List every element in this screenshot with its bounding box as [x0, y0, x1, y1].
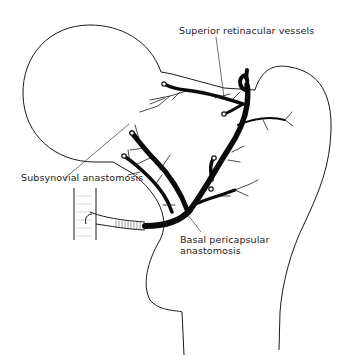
label-superior-retinacular-vessels: Superior retinacular vessels [179, 25, 314, 37]
vessel-tip [222, 112, 226, 116]
femoral-head-outline [23, 25, 161, 173]
basal-vessel-trunk [145, 210, 190, 226]
leader-subsynovial [65, 124, 129, 178]
vessel-tip [130, 131, 134, 135]
vessel-tip [212, 156, 216, 160]
superior-short-branch [224, 104, 243, 114]
circumflex-hatching [116, 221, 140, 230]
subsynovial-branch-lower [124, 156, 172, 212]
circumflex-artery-lower [96, 224, 145, 230]
vessel-tip [162, 82, 166, 86]
leader-superior-retinacular [216, 37, 224, 97]
medial-shaft-outline [132, 173, 184, 355]
femoral-artery-hatching [76, 196, 92, 236]
label-basal-pericapsular-line2: anastomosis [180, 245, 241, 257]
circumflex-artery-upper [90, 212, 145, 222]
vessel-tip [209, 187, 213, 191]
retinacular-top [246, 70, 247, 78]
leader-basal-pericapsular [188, 215, 201, 232]
vessel-tip [122, 154, 126, 158]
circumflex-origin-curve [85, 214, 92, 224]
greater-trochanter-outline [255, 66, 331, 350]
label-subsynovial-anastomosis: Subsynovial anastomosis [21, 172, 143, 184]
